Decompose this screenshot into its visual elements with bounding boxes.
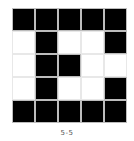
grid-cell-0-1[interactable] [35,8,58,31]
grid-cell-2-4[interactable] [104,54,127,77]
grid-cell-3-2[interactable] [58,77,81,100]
grid-cell-0-4[interactable] [104,8,127,31]
grid-cell-4-3[interactable] [81,100,104,123]
grid-cell-2-3[interactable] [81,54,104,77]
grid-cell-4-2[interactable] [58,100,81,123]
grid-cell-1-0[interactable] [12,31,35,54]
grid-cell-0-2[interactable] [58,8,81,31]
grid-cell-1-1[interactable] [35,31,58,54]
grid-cell-0-3[interactable] [81,8,104,31]
grid-cell-2-2[interactable] [58,54,81,77]
grid-cell-3-3[interactable] [81,77,104,100]
grid-cell-1-3[interactable] [81,31,104,54]
grid-cell-4-1[interactable] [35,100,58,123]
grid-cell-1-2[interactable] [58,31,81,54]
grid-cell-4-4[interactable] [104,100,127,123]
grid-cell-3-0[interactable] [12,77,35,100]
grid-cell-2-1[interactable] [35,54,58,77]
grid-cell-1-4[interactable] [104,31,127,54]
grid-cell-4-0[interactable] [12,100,35,123]
grid-cell-0-0[interactable] [12,8,35,31]
grid-label: 5-5 [0,129,134,137]
grid-cell-3-1[interactable] [35,77,58,100]
grid-cell-3-4[interactable] [104,77,127,100]
pixel-grid [12,8,127,123]
grid-cell-2-0[interactable] [12,54,35,77]
